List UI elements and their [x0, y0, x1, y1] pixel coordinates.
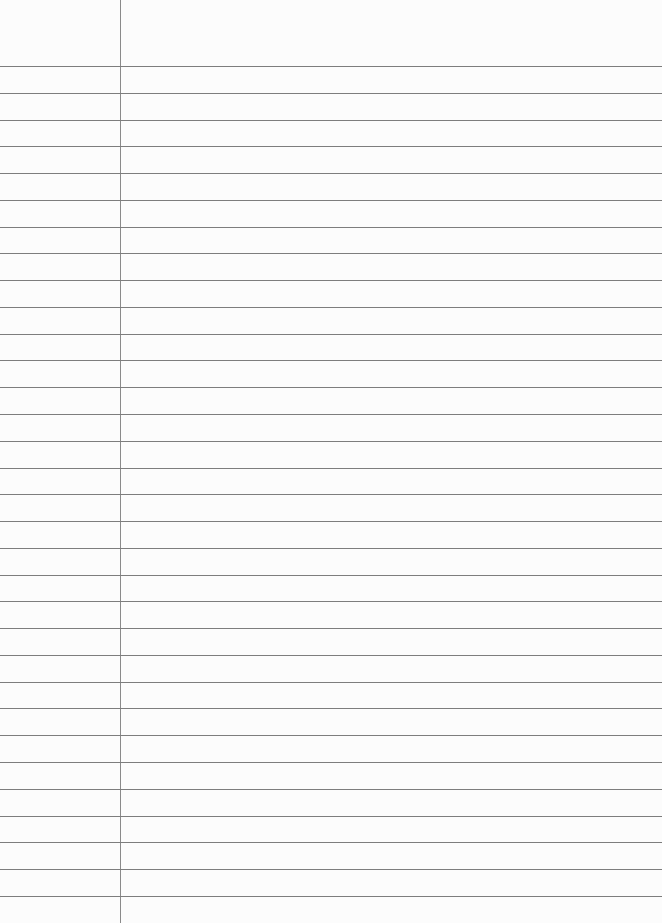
ruled-line	[0, 146, 662, 147]
ruled-line	[0, 601, 662, 602]
ruled-line	[0, 762, 662, 763]
ruled-line	[0, 735, 662, 736]
ruled-line	[0, 414, 662, 415]
ruled-line	[0, 869, 662, 870]
ruled-line	[0, 896, 662, 897]
ruled-line	[0, 441, 662, 442]
margin-line	[120, 0, 121, 923]
ruled-line	[0, 387, 662, 388]
ruled-line	[0, 655, 662, 656]
ruled-line	[0, 468, 662, 469]
ruled-line	[0, 360, 662, 361]
ruled-line	[0, 708, 662, 709]
ruled-line	[0, 494, 662, 495]
ruled-line	[0, 120, 662, 121]
ruled-line	[0, 307, 662, 308]
ruled-line	[0, 173, 662, 174]
ruled-line	[0, 280, 662, 281]
ruled-line	[0, 200, 662, 201]
ruled-line	[0, 682, 662, 683]
ruled-line	[0, 93, 662, 94]
lined-paper	[0, 0, 662, 923]
ruled-line	[0, 628, 662, 629]
ruled-line	[0, 548, 662, 549]
ruled-line	[0, 789, 662, 790]
ruled-line	[0, 66, 662, 67]
ruled-line	[0, 816, 662, 817]
ruled-line	[0, 253, 662, 254]
ruled-line	[0, 521, 662, 522]
ruled-line	[0, 334, 662, 335]
ruled-line	[0, 842, 662, 843]
ruled-line	[0, 575, 662, 576]
ruled-line	[0, 227, 662, 228]
